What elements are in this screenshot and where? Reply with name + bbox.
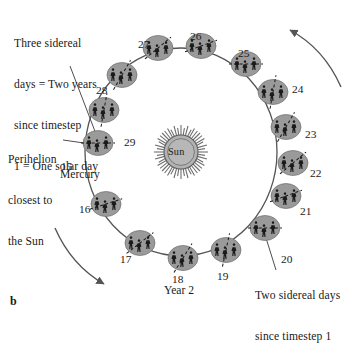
timestep-number: 15 (61, 160, 72, 173)
timestep-number: 19 (217, 270, 228, 283)
timestep-number: 20 (281, 253, 292, 266)
timestep-number: 28 (96, 84, 107, 97)
note-line: Two sidereal days (255, 289, 340, 303)
note-line: days = Two years (14, 78, 98, 92)
note-line: closest to (8, 194, 57, 208)
two-sidereal-days-note: Two sidereal days since timestep 1 (255, 262, 340, 347)
timestep-number: 16 (79, 203, 90, 216)
perihelion-note: Perihelion closest to the Sun (8, 126, 57, 276)
timestep-number: 18 (172, 273, 183, 286)
note-line: Three sidereal (14, 37, 98, 51)
note-line: Perihelion (8, 153, 57, 167)
planet-marker (125, 231, 155, 256)
timestep-number: 22 (310, 167, 321, 180)
timestep-number: 25 (238, 47, 249, 60)
sun-label: Sun (168, 146, 184, 158)
planet-marker (211, 233, 241, 266)
planet-marker (278, 151, 308, 176)
note-line: the Sun (8, 235, 57, 249)
timestep-number: 23 (305, 128, 316, 141)
planet-marker (107, 60, 137, 89)
planet-marker (258, 75, 288, 108)
timestep-number: 24 (292, 83, 303, 96)
planet-marker (248, 216, 282, 241)
planet-marker (270, 184, 302, 209)
timestep-number: 27 (138, 38, 149, 51)
note-line: since timestep 1 (255, 330, 340, 344)
panel-letter: b (10, 294, 17, 308)
timestep-number: 29 (124, 136, 135, 149)
planet-marker (168, 244, 198, 273)
timestep-number: 21 (300, 205, 311, 218)
timestep-number: 17 (120, 253, 131, 266)
timestep-number: 26 (190, 30, 201, 43)
